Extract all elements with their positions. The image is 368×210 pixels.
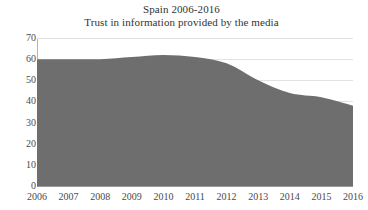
area-series-path: [37, 55, 353, 186]
x-tick-label: 2016: [333, 191, 368, 202]
